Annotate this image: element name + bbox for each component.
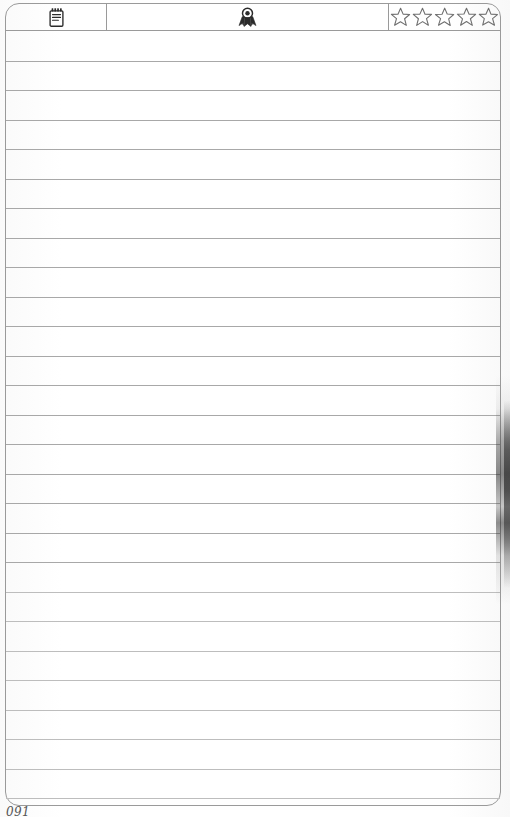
- rule-line: [6, 297, 500, 298]
- rule-line: [6, 474, 500, 475]
- rule-line: [6, 651, 500, 652]
- rule-line: [6, 208, 500, 209]
- notepad-icon: [49, 8, 64, 27]
- rule-line: [6, 267, 500, 268]
- ruled-writing-area[interactable]: [6, 31, 500, 807]
- header-cell-notes[interactable]: [6, 4, 107, 30]
- rule-line: [6, 444, 500, 445]
- star-outline-icon-2[interactable]: [412, 7, 433, 27]
- rule-line: [6, 621, 500, 622]
- journal-sheet: [5, 3, 501, 806]
- star-outline-icon-4[interactable]: [456, 7, 477, 27]
- rule-line: [6, 769, 500, 770]
- star-outline-icon-1[interactable]: [390, 7, 411, 27]
- rule-line: [6, 179, 500, 180]
- star-outline-icon-5[interactable]: [478, 7, 499, 27]
- rule-line: [6, 149, 500, 150]
- rule-line: [6, 710, 500, 711]
- rating-stars-group[interactable]: [389, 4, 500, 30]
- header-cell-award[interactable]: [107, 4, 389, 30]
- rule-line: [6, 385, 500, 386]
- rule-line: [6, 503, 500, 504]
- rule-line: [6, 592, 500, 593]
- rule-line: [6, 739, 500, 740]
- scan-edge-shadow-inner: [504, 0, 510, 817]
- rule-line: [6, 356, 500, 357]
- star-outline-icon-3[interactable]: [434, 7, 455, 27]
- rule-line: [6, 798, 500, 799]
- rule-line: [6, 533, 500, 534]
- rule-line: [6, 61, 500, 62]
- rule-line: [6, 415, 500, 416]
- rule-line: [6, 238, 500, 239]
- scanned-page: 091: [0, 0, 510, 817]
- rule-line: [6, 562, 500, 563]
- rule-line: [6, 120, 500, 121]
- page-number: 091: [6, 805, 30, 817]
- header-row: [6, 4, 500, 31]
- rule-line: [6, 326, 500, 327]
- award-rosette-icon: [237, 7, 258, 27]
- rule-line: [6, 90, 500, 91]
- rule-line: [6, 680, 500, 681]
